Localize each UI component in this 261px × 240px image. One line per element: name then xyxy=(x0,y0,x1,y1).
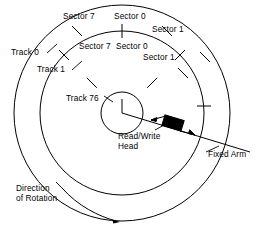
disk-platter-diagram: Sector 7 Sector 0 Sector 1 Sector 7 Sect… xyxy=(0,0,261,240)
direction-of-rotation-label: Direction of Rotation xyxy=(16,183,57,203)
direction-of-rotation-arrow xyxy=(62,188,120,224)
track-76-label: Track 76 xyxy=(66,93,99,103)
track-0-label: Track 0 xyxy=(11,47,39,57)
sector-7-outer-label: Sector 7 xyxy=(63,11,95,21)
sector-0-inner-label: Sector 0 xyxy=(116,41,148,51)
outer-tick-upper-right xyxy=(147,78,157,88)
sector-0-outer-label: Sector 0 xyxy=(114,11,146,21)
outer-cross-tick-mid-right xyxy=(178,68,188,78)
sector-1-outer-label: Sector 1 xyxy=(152,24,184,34)
outer-cross-tick-far-right xyxy=(200,52,210,62)
outer-ring-cross-ticks xyxy=(72,26,210,78)
fixed-arm-label: Fixed Arm xyxy=(208,149,246,159)
sector-7-inner-label: Sector 7 xyxy=(79,41,111,51)
outer-tick-upper-left xyxy=(87,78,97,88)
head-arrow-upper-tip xyxy=(151,118,157,122)
disk-diagram-canvas xyxy=(0,0,261,240)
outer-cross-tick-left xyxy=(72,26,82,36)
track0-leader-line xyxy=(47,44,57,53)
track1-leader-line xyxy=(72,61,82,70)
read-write-head-block xyxy=(162,115,184,131)
head-arrow-lower-tip xyxy=(189,130,195,135)
track-1-label: Track 1 xyxy=(37,64,65,74)
sector-1-inner-label: Sector 1 xyxy=(143,52,175,62)
direction-of-rotation-arrowhead xyxy=(113,220,121,224)
read-write-head-label: Read/Write Head xyxy=(118,131,160,151)
